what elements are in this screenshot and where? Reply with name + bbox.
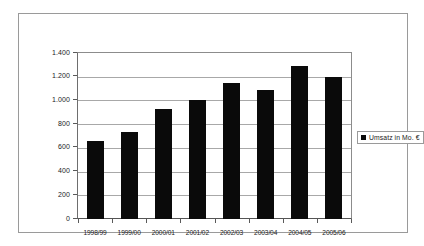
bar [291,66,308,219]
y-axis-tick-mark [73,123,77,124]
bar [121,132,138,219]
y-axis-tick-mark [73,75,77,76]
x-axis-tick: 2005/06 [317,221,351,239]
bar-slot [78,53,112,219]
bar-series [78,53,351,219]
x-axis: 1998/991999/002000/012001/022002/032003/… [78,221,351,239]
y-axis-tick-label: 1.000 [52,96,70,103]
x-axis-tick: 2003/04 [249,221,283,239]
y-axis-tick-label: 800 [58,120,70,127]
y-axis-tick: 400 [58,165,77,177]
y-axis: 1.4001.2001.0008006004002000 [37,52,77,219]
y-axis-tick: 1.200 [52,70,77,82]
y-axis-tick-label: 1.200 [52,72,70,79]
x-axis-tick: 2002/03 [215,221,249,239]
bar-slot [283,53,317,219]
x-axis-tick: 2000/01 [146,221,180,239]
x-axis-tick: 2001/02 [180,221,214,239]
x-axis-tick-label: 2003/04 [254,229,277,236]
y-axis-tick: 0 [66,212,77,224]
bar-slot [146,53,180,219]
legend-square-marker-icon [361,135,366,140]
y-axis-tick-label: 400 [58,167,70,174]
y-axis-tick-mark [73,218,77,219]
y-axis-tick: 1.400 [52,46,77,58]
chart-frame: 1.4001.2001.0008006004002000 1998/991999… [18,13,408,233]
y-axis-tick-label: 600 [58,143,70,150]
bar-slot [112,53,146,219]
x-axis-tick: 1998/99 [78,221,112,239]
chart-container: 1.4001.2001.0008006004002000 1998/991999… [0,0,424,246]
y-axis-tick: 1.000 [52,93,77,105]
bar [223,83,240,219]
x-axis-tick: 1999/00 [112,221,146,239]
x-axis-tick-label: 1998/99 [83,229,106,236]
y-axis-tick-mark [73,194,77,195]
y-axis-tick-mark [73,146,77,147]
y-axis-tick: 800 [58,117,77,129]
legend-label: Umsatz in Mo. € [369,134,420,141]
y-axis-tick-label: 1.400 [52,49,70,56]
y-axis-tick: 200 [58,188,77,200]
y-axis-tick-mark [73,170,77,171]
x-axis-tick-mark [351,219,352,223]
y-axis-tick-mark [73,99,77,100]
y-axis-tick-label: 200 [58,191,70,198]
bar-slot [249,53,283,219]
x-axis-tick-label: 2005/06 [322,229,345,236]
y-axis-tick: 600 [58,141,77,153]
bar-slot [180,53,214,219]
bar-slot [215,53,249,219]
bar [325,77,342,219]
bar [155,109,172,219]
bar [87,141,104,219]
x-axis-tick-label: 2000/01 [152,229,175,236]
x-axis-tick-label: 2001/02 [186,229,209,236]
x-axis-tick-label: 1999/00 [118,229,141,236]
bar [189,100,206,219]
x-axis-tick-label: 2002/03 [220,229,243,236]
x-axis-tick-label: 2004/05 [288,229,311,236]
y-axis-tick-label: 0 [66,215,70,222]
x-axis-tick: 2004/05 [283,221,317,239]
bar [257,90,274,219]
y-axis-tick-mark [73,52,77,53]
chart-legend: Umsatz in Mo. € [357,131,424,144]
bar-slot [317,53,351,219]
